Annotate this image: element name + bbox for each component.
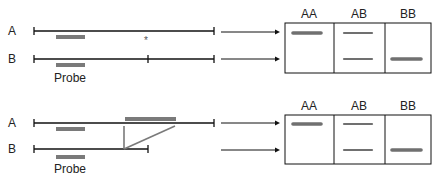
mutation-asterisk-icon: *	[144, 35, 148, 46]
probe-bar	[56, 127, 85, 131]
allele-label-b: B	[8, 142, 16, 156]
allele-label-a: A	[8, 116, 16, 130]
genotype-label-bb: BB	[400, 99, 416, 113]
genotype-label-ab: AB	[351, 7, 367, 21]
gel-box	[285, 23, 431, 73]
probe-label: Probe	[54, 71, 86, 85]
diagram-canvas: ABProbe*AAABBBABProbeAAABBB	[0, 0, 441, 178]
genotype-label-ab: AB	[351, 99, 367, 113]
arrowhead-icon	[275, 57, 280, 62]
insertion-diagonal-line	[124, 126, 175, 149]
probe-bar	[56, 63, 85, 67]
arrowhead-icon	[275, 30, 280, 35]
probe-bar	[56, 155, 85, 159]
genotype-label-aa: AA	[301, 7, 317, 21]
genotype-label-aa: AA	[301, 99, 317, 113]
allele-label-b: B	[8, 52, 16, 66]
allele-label-a: A	[8, 24, 16, 38]
probe-label: Probe	[54, 162, 86, 176]
insertion-bar	[125, 117, 176, 121]
genotype-label-bb: BB	[400, 7, 416, 21]
arrowhead-icon	[275, 121, 280, 126]
probe-bar	[56, 35, 85, 39]
arrowhead-icon	[275, 148, 280, 153]
